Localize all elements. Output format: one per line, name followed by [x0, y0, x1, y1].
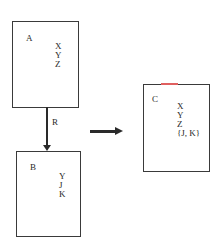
entity-label-c: C — [152, 95, 158, 104]
attribute-list-a: X Y Z — [55, 42, 62, 69]
relationship-label: R — [52, 118, 58, 127]
entity-box-a: A X Y Z — [12, 21, 79, 108]
attribute: Z — [55, 60, 62, 69]
arrow-right-icon — [115, 127, 123, 135]
attribute-set: {J, K} — [177, 129, 200, 138]
accent-mark — [161, 83, 178, 85]
entity-box-c: C X Y Z {J, K} — [143, 84, 210, 172]
attribute-list-c: X Y Z {J, K} — [177, 102, 200, 138]
entity-box-b: B Y J K — [16, 151, 81, 237]
attribute-list-b: Y J K — [59, 172, 66, 199]
relationship-arrow-line — [46, 107, 48, 148]
attribute: K — [59, 190, 66, 199]
entity-label-b: B — [30, 163, 36, 172]
entity-label-a: A — [26, 34, 33, 43]
transform-arrow-line — [90, 130, 117, 133]
